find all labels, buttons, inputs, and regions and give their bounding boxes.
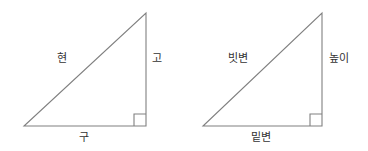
modern-right-angle-icon — [310, 114, 322, 126]
modern-vertical-label: 높이 — [329, 52, 349, 65]
classical-right-angle-icon — [134, 114, 146, 126]
classical-hypotenuse-label: 현 — [57, 52, 67, 65]
modern-terms-triangle — [203, 13, 322, 126]
classical-vertical-label: 고 — [152, 52, 162, 65]
modern-base-label: 밑변 — [251, 131, 271, 144]
diagram-canvas: 현 고 구 빗변 높이 밑변 — [0, 0, 368, 151]
modern-hypotenuse-label: 빗변 — [228, 52, 248, 65]
classical-terms-triangle — [24, 13, 146, 126]
modern-triangle-outline — [203, 13, 322, 126]
classical-base-label: 구 — [79, 131, 89, 144]
triangles-svg — [0, 0, 368, 151]
classical-triangle-outline — [24, 13, 146, 126]
